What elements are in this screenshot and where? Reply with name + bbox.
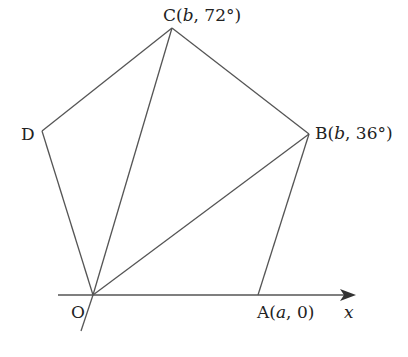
diagonal-oc [93,28,172,295]
diagonal-ob [93,134,309,295]
pentagon-diagram: C(b, 72°) B(b, 36°) D O A(a, 0) x [0,0,408,357]
label-c: C(b, 72°) [163,5,241,25]
edge-bc [172,28,309,134]
label-d: D [21,124,35,144]
label-x-axis: x [344,302,354,322]
label-a: A(a, 0) [256,302,314,322]
label-b: B(b, 36°) [315,123,393,143]
label-o: O [71,302,85,322]
edge-cd [42,28,172,131]
edge-ab [258,134,309,295]
edge-do [42,131,93,295]
